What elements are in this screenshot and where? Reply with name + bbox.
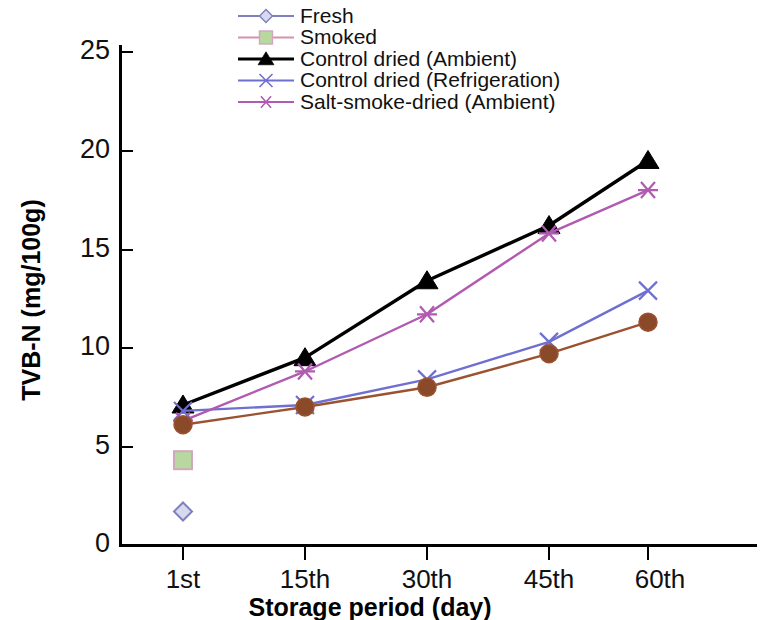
series-0	[174, 502, 192, 520]
y-tick-label: 10	[80, 331, 110, 361]
data-point-diamond	[174, 502, 192, 520]
y-axis-title: TVB-N (mg/100g)	[17, 199, 45, 400]
y-tick-label: 5	[95, 430, 110, 460]
data-point-circle	[639, 313, 657, 331]
legend-label: Smoked	[300, 25, 377, 48]
data-point-circle	[540, 345, 558, 363]
chart-figure: TVB-N (mg/100g) 25 20 15 10 5 0	[0, 0, 763, 620]
x-tick-label: 60th	[635, 564, 686, 594]
legend-label: Control dried (Ambient)	[300, 47, 517, 70]
data-point-x	[639, 282, 657, 300]
series-1	[174, 451, 192, 469]
data-point-square	[174, 451, 192, 469]
series-3	[174, 282, 657, 420]
data-point-circle	[418, 378, 436, 396]
series-line	[183, 160, 648, 405]
series-2	[172, 150, 659, 413]
x-axis-title: Storage period (day)	[248, 593, 491, 620]
legend-label: Fresh	[300, 4, 354, 27]
legend-item-0[interactable]: Fresh	[238, 4, 354, 27]
data-point-circle	[174, 416, 192, 434]
y-tick-marks	[120, 52, 133, 545]
y-tick-label: 0	[95, 528, 110, 558]
x-tick-label: 45th	[524, 564, 575, 594]
axis-lines	[120, 45, 757, 545]
series-layer	[172, 150, 659, 520]
data-point-circle	[296, 398, 314, 416]
x-tick-labels: 1st 15th 30th 45th 60th	[166, 564, 686, 594]
legend-item-1[interactable]: Smoked	[238, 25, 377, 48]
y-tick-label: 15	[80, 233, 110, 263]
data-point-triangle	[637, 150, 659, 168]
data-point-asterisk	[638, 182, 658, 198]
series-5	[174, 313, 657, 434]
line-chart-svg: TVB-N (mg/100g) 25 20 15 10 5 0	[0, 0, 763, 620]
data-point-triangle	[294, 348, 316, 366]
y-tick-label: 20	[80, 134, 110, 164]
x-tick-label: 30th	[402, 564, 453, 594]
y-tick-label: 25	[80, 35, 110, 65]
data-point-square	[260, 31, 273, 44]
x-tick-label: 15th	[280, 564, 331, 594]
x-tick-marks	[183, 545, 648, 560]
legend-item-2[interactable]: Control dried (Ambient)	[238, 47, 517, 70]
series-4	[173, 182, 658, 429]
data-point-diamond	[260, 10, 273, 23]
data-point-triangle	[416, 271, 438, 289]
y-tick-labels: 25 20 15 10 5 0	[80, 35, 110, 558]
series-line	[183, 190, 648, 421]
x-tick-label: 1st	[166, 564, 201, 594]
legend-item-3[interactable]: Control dried (Refrigeration)	[238, 68, 560, 91]
legend-label: Salt-smoke-dried (Ambient)	[300, 90, 556, 113]
data-point-asterisk	[259, 96, 273, 108]
legend-item-4[interactable]: Salt-smoke-dried (Ambient)	[238, 90, 556, 113]
legend-label: Control dried (Refrigeration)	[300, 68, 560, 91]
series-line	[183, 322, 648, 425]
chart-legend: FreshSmokedControl dried (Ambient)Contro…	[238, 4, 560, 113]
